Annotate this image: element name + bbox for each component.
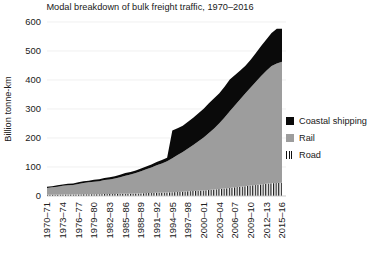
x-tick-label: 1991–92 <box>151 202 162 239</box>
chart-root: Modal breakdown of bulk freight traffic,… <box>0 0 388 260</box>
legend-swatch-coastal-shipping <box>286 117 294 125</box>
y-tick-label: 400 <box>25 74 41 85</box>
y-axis-title: Billion tonne-km <box>3 76 13 142</box>
legend-label-road: Road <box>299 150 321 160</box>
x-tick-label: 1988–89 <box>135 202 146 239</box>
x-tick-label: 1979–80 <box>88 202 99 239</box>
series-areas <box>47 29 282 196</box>
legend-item-rail[interactable]: Rail <box>286 130 386 145</box>
y-axis-ticks: 0100200300400500600 <box>25 16 41 201</box>
x-tick-label: 2006–07 <box>229 202 240 239</box>
y-tick-label: 300 <box>25 103 41 114</box>
x-tick-label: 1994–95 <box>167 202 178 239</box>
legend-item-coastal-shipping[interactable]: Coastal shipping <box>286 113 386 128</box>
legend-item-road[interactable]: Road <box>286 147 386 162</box>
x-tick-label: 2009–10 <box>245 202 256 239</box>
x-tick-label: 1970–71 <box>41 202 52 239</box>
legend-swatch-rail <box>286 134 294 142</box>
x-tick-label: 2003–04 <box>214 202 225 239</box>
y-tick-label: 500 <box>25 45 41 56</box>
y-tick-label: 0 <box>36 190 41 201</box>
x-tick-label: 1973–74 <box>57 202 68 239</box>
legend: Coastal shipping Rail Road <box>286 113 386 164</box>
legend-label-rail: Rail <box>299 133 315 143</box>
x-tick-label: 1982–83 <box>104 202 115 239</box>
x-tick-label: 2012–13 <box>261 202 272 239</box>
x-tick-label: 1997–98 <box>182 202 193 239</box>
x-tick-label: 2015–16 <box>276 202 287 239</box>
x-tick-label: 1976–77 <box>73 202 84 239</box>
legend-label-coastal-shipping: Coastal shipping <box>299 116 367 126</box>
y-tick-label: 200 <box>25 132 41 143</box>
y-tick-label: 100 <box>25 161 41 172</box>
legend-swatch-road <box>286 151 294 159</box>
x-tick-label: 1985–86 <box>120 202 131 239</box>
y-tick-label: 600 <box>25 16 41 27</box>
x-axis-ticks: 1970–711973–741976–771979–801982–831985–… <box>41 202 287 239</box>
x-tick-label: 2000–01 <box>198 202 209 239</box>
